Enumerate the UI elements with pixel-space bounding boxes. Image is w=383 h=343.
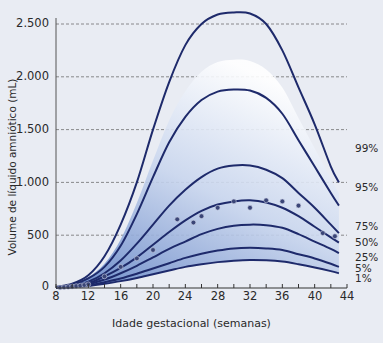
label-p99: 99% [355,143,378,154]
data-point [175,217,180,222]
label-p95: 95% [355,182,378,193]
data-point [102,274,107,279]
data-point [332,234,337,239]
x-tick-36: 36 [270,289,294,303]
data-point [248,205,253,210]
data-point [320,231,325,236]
data-point [296,203,301,208]
label-p75: 75% [355,221,378,232]
data-point [215,205,220,210]
label-p50: 50% [355,237,378,248]
data-point [151,248,156,253]
y-axis-label: Volume de líquido amniótico (mL) [6,62,20,272]
data-point [191,220,196,225]
x-axis-label: Idade gestacional (semanas) [0,317,383,330]
x-tick-44: 44 [335,289,359,303]
data-point [280,199,285,204]
x-tick-40: 40 [303,289,327,303]
y-tick-1500: 1.500 [16,122,49,136]
x-tick-24: 24 [173,289,197,303]
data-point [231,199,236,204]
x-tick-12: 12 [76,289,100,303]
y-tick-500: 500 [27,228,49,242]
x-tick-28: 28 [206,289,230,303]
data-point [134,256,139,261]
x-tick-32: 32 [238,289,262,303]
y-tick-2500: 2.500 [16,16,49,30]
y-tick-2000: 2.000 [16,69,49,83]
x-tick-20: 20 [141,289,165,303]
y-tick-1000: 1.000 [16,175,49,189]
data-point [199,214,204,219]
data-point [118,264,123,269]
chart-container: Volume de líquido amniótico (mL) Idade g… [0,0,383,343]
label-p1: 1% [355,273,372,284]
x-tick-16: 16 [109,289,133,303]
x-tick-8: 8 [44,289,68,303]
data-point [264,198,269,203]
